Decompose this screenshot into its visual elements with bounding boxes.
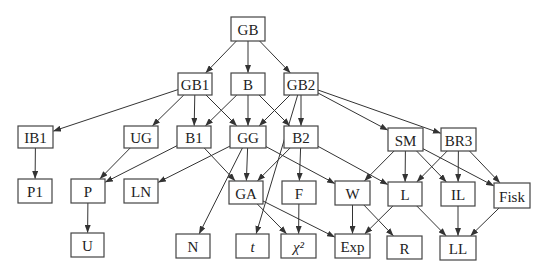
node-w: W [335,181,370,205]
node-label: LL [449,241,467,257]
node-n: N [176,234,210,258]
node-label: LN [131,184,151,200]
node-ll: LL [440,236,476,260]
node-ga: GA [229,181,263,204]
node-label: F [295,186,303,202]
node-b: B [231,73,265,95]
edge-gb2-to-sm [318,93,388,130]
node-label: P1 [27,184,43,200]
edge-gb2-to-br3 [318,90,441,133]
node-b2: B2 [284,126,318,148]
node-b1: B1 [177,126,211,148]
node-ug: UG [124,126,158,148]
node-label: N [188,239,199,255]
node-chi2: χ² [281,234,316,258]
node-label: Exp [340,239,364,255]
edge-b2-to-l [318,146,388,184]
edge-l-to-ll [417,206,446,236]
node-label: IB1 [24,130,47,146]
node-ln: LN [124,179,158,203]
edges [35,41,500,237]
node-label: χ² [291,239,305,255]
node-label: GA [235,186,257,202]
node-label: P [84,184,92,200]
edge-gb-to-gb2 [260,41,291,73]
node-label: R [399,241,409,257]
distribution-relationship-diagram: GBGB1BGB2IB1UGB1GGB2SMBR3P1PLNGAFWLILFis… [0,0,542,274]
node-il: IL [441,182,475,206]
node-gg: GG [230,126,266,148]
node-exp: Exp [335,234,370,258]
node-gb2: GB2 [284,73,318,95]
node-p: P [71,179,105,203]
node-u: U [71,233,104,257]
node-label: GB2 [287,77,315,93]
edge-gb-to-gb1 [206,41,237,73]
edge-gb1-to-b1 [194,95,195,126]
node-label: SM [395,133,417,149]
node-gb: GB [231,17,265,41]
node-label: L [400,187,409,203]
node-f: F [282,181,316,204]
edge-ug-to-p [100,148,130,179]
node-label: U [82,238,93,254]
node-label: Fisk [499,189,525,205]
node-br3: BR3 [441,128,476,151]
edge-gb1-to-ib1 [54,90,179,131]
node-r: R [387,236,422,259]
node-ib1: IB1 [18,126,53,148]
node-label: BR3 [445,133,473,149]
node-label: B2 [292,130,310,146]
node-label: W [345,186,360,202]
node-label: GG [237,130,259,146]
node-label: B [243,77,253,93]
edge-gg-to-ga [246,148,247,181]
edge-b1-to-ga [204,148,235,181]
edge-sm-to-w [365,151,394,181]
node-l: L [388,182,422,206]
node-label: GB1 [181,77,209,93]
edge-gb2-to-t [256,95,298,234]
edge-br3-to-fisk [470,151,500,183]
node-label: GB [238,22,259,38]
node-label: IL [451,187,465,203]
node-sm: SM [388,128,423,151]
edge-b2-to-f [299,148,300,181]
edge-b1-to-p [105,146,177,182]
nodes: GBGB1BGB2IB1UGB1GGB2SMBR3P1PLNGAFWLILFis… [18,17,530,260]
node-label: B1 [185,130,203,146]
node-t: t [236,234,269,258]
node-label: UG [130,130,152,146]
node-gb1: GB1 [178,73,212,95]
node-p1: P1 [18,179,52,203]
node-fisk: Fisk [494,183,530,208]
edge-gb1-to-ug [153,95,184,126]
edge-fisk-to-ll [471,208,499,236]
edge-ga-to-chi2 [257,204,286,234]
